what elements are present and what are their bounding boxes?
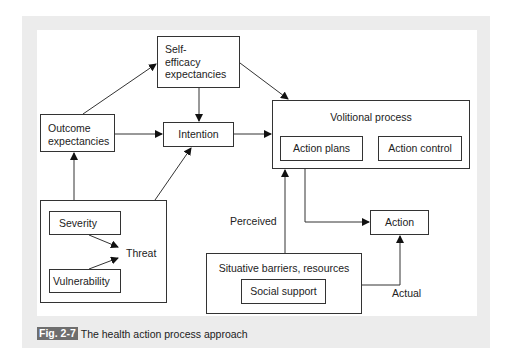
- figure-caption: Fig. 2-7 The health action process appro…: [37, 327, 248, 340]
- perceived-label: Perceived: [230, 215, 277, 227]
- self-efficacy-box: Self- efficacy expectancies: [157, 36, 240, 88]
- threat-label: Threat: [126, 247, 156, 259]
- arrow-actual-to-action: [362, 236, 400, 285]
- intention-box: Intention: [163, 122, 234, 147]
- outcome-line2: expectancies: [48, 135, 114, 148]
- outcome-line1: Outcome: [48, 122, 114, 135]
- action-box: Action: [370, 210, 429, 235]
- arrow-outcome-to-selfefficacy: [83, 64, 156, 114]
- figure-number-badge: Fig. 2-7: [37, 327, 78, 340]
- action-control-label: Action control: [388, 142, 452, 155]
- volitional-process-title: Volitional process: [273, 111, 469, 124]
- vulnerability-label: Vulnerability: [53, 275, 110, 287]
- arrow-selfefficacy-to-volitional: [240, 63, 288, 99]
- self-efficacy-line3: expectancies: [165, 68, 239, 81]
- severity-label: Severity: [59, 217, 97, 229]
- situative-barriers-title: Situative barriers, resources: [207, 262, 361, 275]
- action-plans-label: Action plans: [293, 142, 350, 155]
- social-support-box: Social support: [241, 279, 326, 304]
- outcome-expectancies-box: Outcome expectancies: [40, 114, 115, 152]
- action-label: Action: [385, 216, 414, 229]
- action-control-box: Action control: [378, 136, 462, 161]
- self-efficacy-line2: efficacy: [165, 56, 239, 69]
- intention-label: Intention: [178, 128, 218, 141]
- self-efficacy-line1: Self-: [165, 43, 239, 56]
- figure-caption-text: The health action process approach: [81, 328, 248, 340]
- vulnerability-box: Vulnerability: [49, 269, 121, 293]
- arrow-volitional-to-action: [305, 169, 369, 222]
- action-plans-box: Action plans: [280, 136, 363, 161]
- severity-box: Severity: [49, 211, 121, 235]
- actual-label: Actual: [392, 287, 421, 299]
- arrow-threat-to-intention: [155, 148, 191, 200]
- social-support-label: Social support: [250, 285, 317, 298]
